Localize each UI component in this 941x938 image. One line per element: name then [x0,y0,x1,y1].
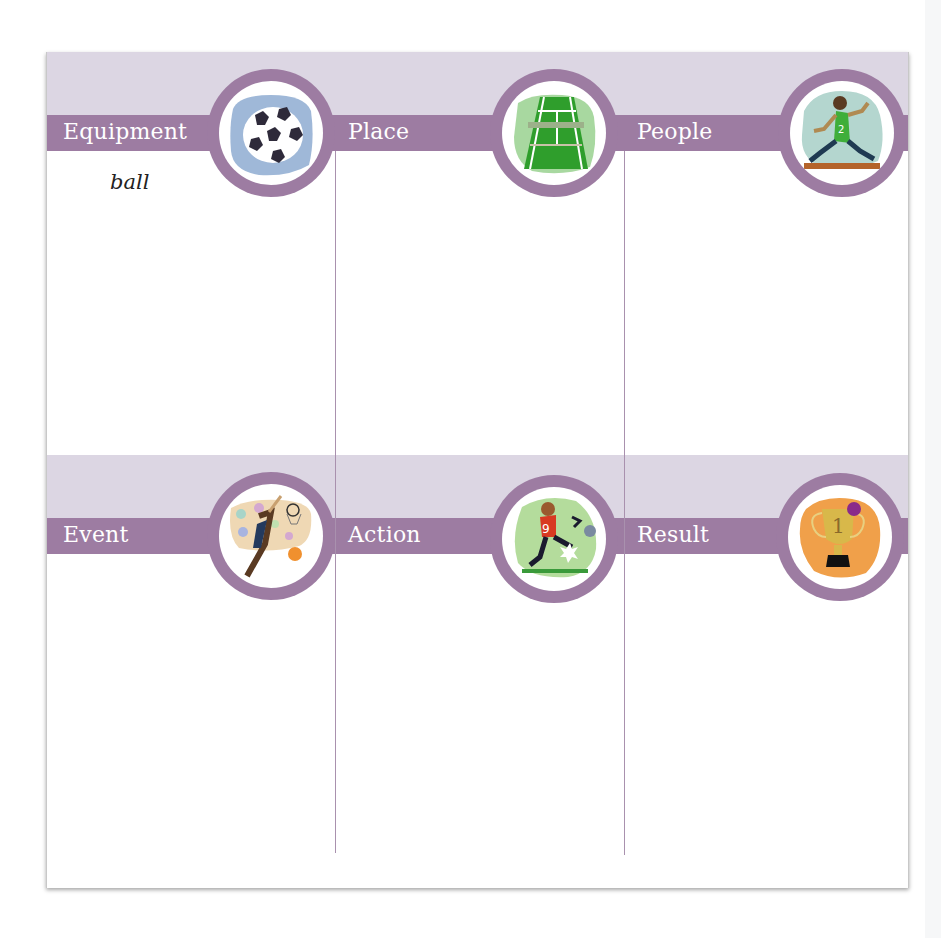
tennis-court-icon [502,81,606,185]
column-label: Action [348,520,421,550]
icon-badge [490,69,618,197]
column-event: Event [47,455,335,888]
entry-text[interactable]: ball [110,170,149,194]
icon-badge: 9 [490,475,618,603]
page-margin [925,0,941,938]
column-label: Result [637,520,709,550]
column-people: People 2 [624,52,908,455]
worksheet-row-top: Equipment ball Plac [47,52,908,455]
runner-icon: 2 [790,81,894,185]
column-label: Place [348,117,409,147]
column-label: People [637,117,712,147]
svg-text:9: 9 [542,522,550,536]
soccer-kick-icon: 9 [502,487,606,591]
icon-badge [207,472,335,600]
icon-badge [207,69,335,197]
svg-text:1: 1 [832,514,845,538]
trophy-icon: 1 [788,485,892,589]
basketball-player-icon [219,484,323,588]
column-equipment: Equipment ball [47,52,335,455]
svg-text:2: 2 [838,124,844,135]
worksheet-row-bottom: Event [47,455,908,888]
icon-badge: 1 [776,473,904,601]
column-place: Place [335,52,624,455]
soccer-ball-icon [219,81,323,185]
icon-badge: 2 [778,69,906,197]
column-action: Action 9 [335,455,624,888]
word-category-worksheet: Equipment ball Plac [46,52,909,888]
column-label: Event [63,520,129,550]
column-label: Equipment [63,117,187,147]
column-result: Result 1 [624,455,908,888]
